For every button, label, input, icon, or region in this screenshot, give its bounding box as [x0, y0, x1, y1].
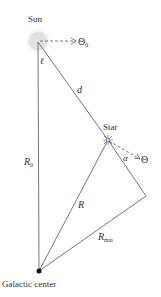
galactic-geometry-diagram: Sun Θ0 ℓ d Star α Θ R0 R Rmin Galactic c… — [0, 0, 161, 297]
theta0-label: Θ0 — [78, 36, 88, 48]
r-label: R — [77, 199, 84, 210]
galactic-center-label: Galactic center — [2, 279, 56, 289]
galactic-center-dot — [37, 269, 42, 274]
sun-label: Sun — [28, 14, 43, 24]
r0-label: R0 — [23, 156, 33, 168]
r0-line — [38, 42, 39, 271]
d-line — [38, 42, 108, 140]
rmin-label: Rmin — [97, 231, 113, 243]
star-icon — [103, 135, 113, 145]
d-label: d — [77, 84, 83, 95]
alpha-label: α — [123, 153, 128, 163]
star-label: Star — [103, 122, 118, 132]
rmin-line — [39, 196, 146, 271]
theta-label: Θ — [141, 154, 148, 165]
ell-label: ℓ — [40, 56, 44, 66]
line-of-sight-extension — [108, 140, 146, 196]
r-line — [39, 140, 108, 271]
